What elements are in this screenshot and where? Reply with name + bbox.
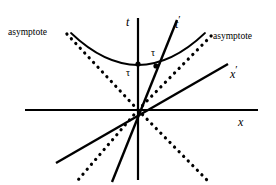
asymptote-line-lower-right <box>138 110 207 180</box>
t-prime-axis-line <box>112 20 177 182</box>
tau-label-on-t-prime-axis: τ <box>151 48 155 58</box>
asymptote-line-upper-right <box>138 33 214 110</box>
x-prime-mark: ′ <box>235 63 237 75</box>
t-prime-axis-label: t′ <box>175 14 181 30</box>
t-prime-mark: ′ <box>178 13 180 25</box>
x-prime-axis-line <box>56 64 228 163</box>
coordinate-axes <box>25 18 258 180</box>
x-prime-axis-label: x′ <box>230 64 238 80</box>
t-axis-label: t <box>126 16 129 28</box>
x-axis-label: x <box>238 116 243 128</box>
tau-label-on-t-axis: τ <box>126 68 130 78</box>
spacetime-diagram-figure: t t′ x x′ τ τ asymptote asymptote <box>0 0 276 185</box>
asymptote-label-right: asymptote <box>213 32 252 42</box>
tau-point-on-t-axis <box>135 61 140 66</box>
asymptote-label-left: asymptote <box>8 28 47 38</box>
asymptote-dotted-lines <box>66 33 214 180</box>
tau-point-on-t-prime-axis <box>153 63 158 68</box>
